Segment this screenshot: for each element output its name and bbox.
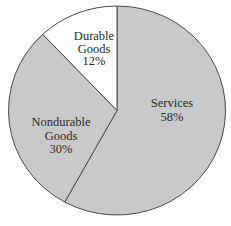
- label-nondurable-name-line2: Goods: [45, 129, 78, 143]
- label-durable-value: 12%: [83, 54, 106, 68]
- label-durable-name-line1: Durable: [74, 29, 115, 43]
- label-nondurable-value: 30%: [50, 142, 73, 156]
- pie-slices: [9, 6, 226, 215]
- label-services-name: Services: [151, 96, 193, 110]
- label-nondurable-name-line1: Nondurable: [31, 115, 90, 129]
- label-services-value: 58%: [161, 110, 184, 124]
- pie-chart: Services 58% Nondurable Goods 30% Durabl…: [0, 0, 231, 226]
